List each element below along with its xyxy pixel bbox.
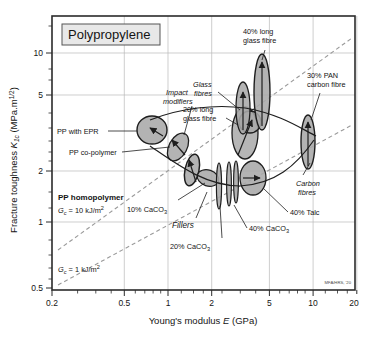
label-pp-co-polymer: PP co-polymer (69, 148, 117, 157)
y-tick-1: 5 (38, 90, 43, 100)
x-tick-5: 10 (308, 298, 318, 308)
y-tick-0: 10 (34, 48, 44, 58)
y-axis-title: Fracture toughness K1c (MPa.m1/2) (8, 87, 20, 233)
x-tick-3: 2 (209, 298, 214, 308)
x-tick-1: 0.5 (118, 298, 130, 308)
label-pp-homopolymer: PP homopolymer (58, 193, 124, 202)
glass-fibres-label-1: Glass (193, 80, 212, 89)
bubble-caco3-40a (227, 162, 232, 206)
x-axis-title: Young's modulus E (GPa) (149, 315, 258, 326)
label-glass-40-1: 40% long (243, 27, 273, 36)
chart-svg: Polypropylene (0, 0, 374, 339)
y-tick-2: 2 (38, 166, 43, 176)
x-tick-4: 5 (267, 298, 272, 308)
fracture-toughness-vs-modulus-chart: Polypropylene (0, 0, 374, 339)
carbon-fibres-label-2: fibres (298, 188, 316, 197)
label-caco3-40: 40% CaCO3 (249, 224, 289, 234)
bubble-caco3-20 (216, 163, 221, 209)
label-glass-40-2: glass fibre (243, 36, 276, 45)
bubble-pp-with-epr (137, 116, 167, 144)
carbon-fibres-label-1: Carbon (296, 179, 320, 188)
label-pp-with-epr: PP with EPR (57, 127, 99, 136)
credit-text: MFA/HRS, '20 (325, 280, 352, 285)
label-talc-40: 40% Talc (290, 208, 320, 217)
bubble-caco3-40b (234, 161, 239, 203)
label-pan-1: 30% PAN (307, 71, 338, 80)
fillers-label: Fillers (172, 221, 194, 230)
x-tick-0: 0.2 (46, 298, 58, 308)
x-tick-6: 20 (349, 298, 359, 308)
y-tick-4: 0.5 (31, 283, 43, 293)
glass-fibres-label-2: fibres (194, 89, 212, 98)
label-caco3-20: 20% CaCO3 (170, 242, 210, 252)
label-pan-2: carbon fibre (307, 80, 346, 89)
x-tick-2: 1 (166, 298, 171, 308)
page-title: Polypropylene (68, 27, 150, 42)
label-glass-20-2: glass fibre (183, 114, 216, 123)
chart-title-box: Polypropylene (62, 24, 160, 45)
label-glass-20-1: 20% long (183, 105, 213, 114)
label-caco3-10: 10% CaCO3 (127, 205, 167, 215)
impact-modifiers-label-1: Impact (166, 88, 189, 97)
y-tick-3: 1 (38, 217, 43, 227)
